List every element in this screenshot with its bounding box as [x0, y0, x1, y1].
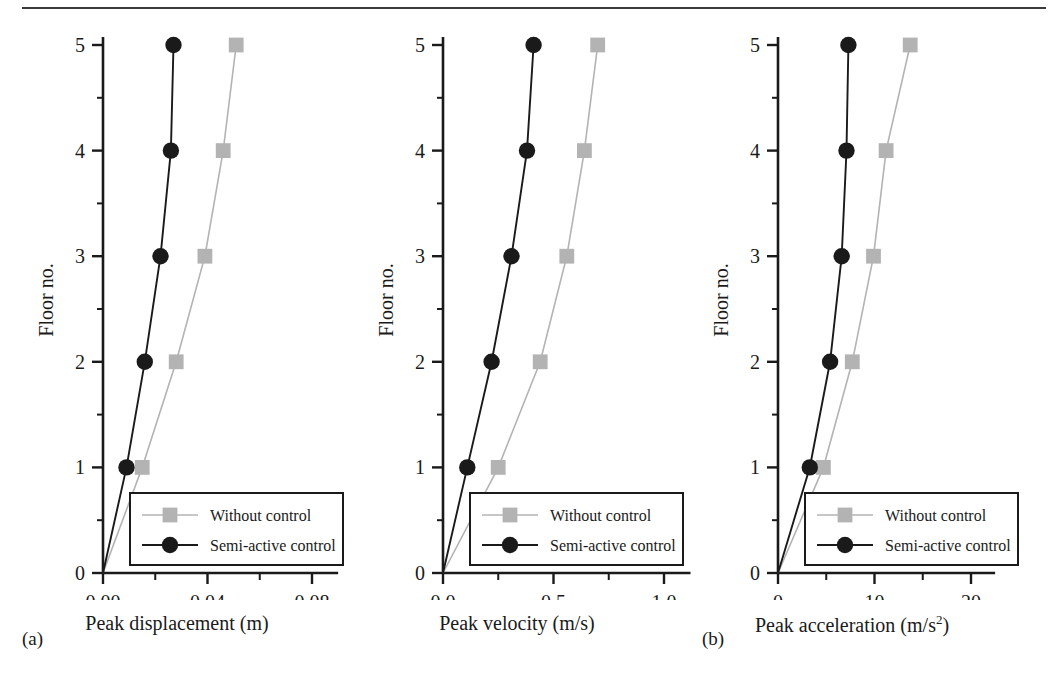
chart-panel-a: 0123450.000.040.08Without controlSemi-ac… [0, 0, 354, 694]
legend-item-semi-active-control-label: Semi-active control [550, 537, 676, 554]
y-axis-label-a: Floor no. [35, 263, 58, 336]
y-axis-tick-label: 2 [415, 351, 425, 373]
x-axis-tick-label: 0.00 [86, 591, 121, 600]
legend-box [470, 493, 683, 565]
x-axis-tick-label: 1.0 [652, 591, 677, 600]
y-axis-tick-label: 5 [75, 34, 85, 56]
data-point-marker-square [845, 354, 860, 369]
data-point-marker-circle [525, 37, 541, 53]
y-axis-tick-label: 3 [415, 245, 425, 267]
legend-item-without-control-marker [503, 508, 518, 523]
data-point-marker-circle [834, 248, 850, 264]
y-axis-tick-label: 4 [415, 140, 425, 162]
y-axis-label-c: Floor no. [710, 263, 733, 336]
data-point-marker-circle [163, 142, 179, 158]
data-point-marker-circle [822, 354, 838, 370]
chart-panel-b: 0123450.00.51.0Without controlSemi-activ… [340, 0, 694, 694]
legend-item-semi-active-control-marker [162, 537, 178, 553]
legend: Without controlSemi-active control [470, 493, 683, 565]
y-axis-tick-label: 1 [750, 456, 760, 478]
chart-panel-c: 01234501020Without controlSemi-active co… [675, 0, 1029, 694]
data-point-marker-square [491, 460, 506, 475]
y-axis-tick-label: 5 [750, 34, 760, 56]
legend-item-semi-active-control-marker [502, 537, 518, 553]
legend-item-without-control-label: Without control [210, 507, 312, 524]
y-axis-tick-label: 3 [75, 245, 85, 267]
data-point-marker-circle [483, 354, 499, 370]
legend-box [805, 493, 1018, 565]
data-point-marker-square [135, 460, 150, 475]
data-point-marker-square [577, 143, 592, 158]
x-axis-tick-label: 10 [865, 591, 885, 600]
data-point-marker-square [559, 249, 574, 264]
x-axis-label-b: Peak velocity (m/s) [340, 612, 694, 635]
y-axis-tick-label: 4 [750, 140, 760, 162]
x-axis-label-a: Peak displacement (m) [0, 612, 354, 635]
legend-item-semi-active-control-label: Semi-active control [210, 537, 336, 554]
y-axis-tick-label: 1 [75, 456, 85, 478]
data-point-marker-circle [802, 459, 818, 475]
data-point-marker-circle [118, 459, 134, 475]
x-axis-tick-label: 0.08 [295, 591, 330, 600]
data-point-marker-square [533, 354, 548, 369]
y-axis-tick-label: 1 [415, 456, 425, 478]
y-axis-label-b: Floor no. [375, 263, 398, 336]
y-axis-tick-label: 4 [75, 140, 85, 162]
data-point-marker-circle [503, 248, 519, 264]
data-point-marker-square [903, 38, 918, 53]
legend-item-semi-active-control-label: Semi-active control [885, 537, 1011, 554]
x-axis-tick-label: 0.0 [431, 591, 456, 600]
legend-item-without-control-label: Without control [550, 507, 652, 524]
y-axis-tick-label: 0 [75, 562, 85, 584]
data-point-marker-square [866, 249, 881, 264]
x-axis-label-c: Peak acceleration (m/s2) [675, 612, 1029, 637]
x-axis-tick-label: 20 [961, 591, 981, 600]
data-point-marker-circle [152, 248, 168, 264]
data-point-marker-square [879, 143, 894, 158]
y-axis-tick-label: 0 [750, 562, 760, 584]
y-axis-tick-label: 5 [415, 34, 425, 56]
legend: Without controlSemi-active control [130, 493, 343, 565]
data-point-marker-circle [165, 37, 181, 53]
y-axis-tick-label: 3 [750, 245, 760, 267]
data-point-marker-circle [137, 354, 153, 370]
y-axis-tick-label: 2 [750, 351, 760, 373]
data-point-marker-square [816, 460, 831, 475]
data-point-marker-circle [519, 142, 535, 158]
legend-item-without-control-label: Without control [885, 507, 987, 524]
legend: Without controlSemi-active control [805, 493, 1018, 565]
panel-tag-a: (a) [22, 628, 43, 650]
data-point-marker-circle [840, 37, 856, 53]
data-point-marker-square [216, 143, 231, 158]
y-axis-tick-label: 2 [75, 351, 85, 373]
data-point-marker-square [198, 249, 213, 264]
data-point-marker-square [590, 38, 605, 53]
x-axis-tick-label: 0.04 [190, 591, 225, 600]
data-point-marker-square [229, 38, 244, 53]
x-axis-label-c-text: Peak acceleration (m/s [755, 614, 936, 636]
y-axis-tick-label: 0 [415, 562, 425, 584]
data-point-marker-square [169, 354, 184, 369]
data-point-marker-circle [459, 459, 475, 475]
legend-box [130, 493, 343, 565]
x-axis-tick-label: 0 [773, 591, 783, 600]
x-axis-label-c-close-paren: ) [942, 614, 949, 636]
data-point-marker-circle [838, 142, 854, 158]
legend-item-semi-active-control-marker [837, 537, 853, 553]
legend-item-without-control-marker [838, 508, 853, 523]
x-axis-tick-label: 0.5 [541, 591, 566, 600]
legend-item-without-control-marker [163, 508, 178, 523]
figure-peak-response-comparison: 0123450.000.040.08Without controlSemi-ac… [0, 0, 1063, 694]
